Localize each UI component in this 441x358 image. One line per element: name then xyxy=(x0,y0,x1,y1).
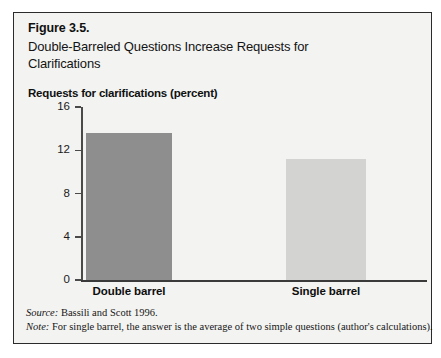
note-line: Note: For single barrel, the answer is t… xyxy=(26,320,425,334)
category-label-double-barrel: Double barrel xyxy=(56,285,202,297)
category-label-single-barrel: Single barrel xyxy=(256,285,396,297)
bar-double-barrel xyxy=(86,133,172,280)
footnotes: Source: Bassili and Scott 1996. Note: Fo… xyxy=(26,306,425,333)
bars-layer xyxy=(14,13,433,281)
note-label: Note: xyxy=(26,321,49,332)
source-label: Source: xyxy=(26,307,58,318)
chart-plot-area: 0481216 Double barrelSingle barrel xyxy=(14,13,433,345)
source-line: Source: Bassili and Scott 1996. xyxy=(26,306,425,320)
bar-single-barrel xyxy=(286,159,366,280)
note-text: For single barrel, the answer is the ave… xyxy=(49,321,432,332)
source-text: Bassili and Scott 1996. xyxy=(58,307,157,318)
figure-container: Figure 3.5. Double-Barreled Questions In… xyxy=(13,12,432,344)
